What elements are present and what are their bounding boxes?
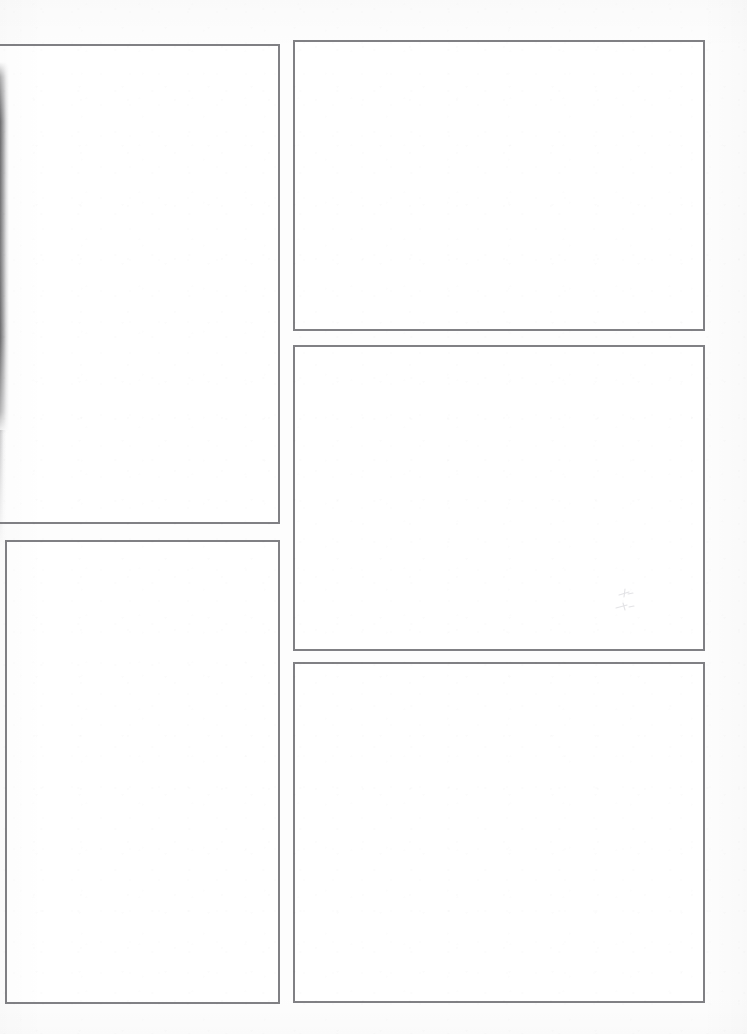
panel-top-left[interactable] xyxy=(0,44,280,524)
panel-top-right[interactable] xyxy=(293,40,705,331)
panel-bottom-left[interactable] xyxy=(5,540,280,1004)
comic-page-canvas xyxy=(0,0,747,1034)
panel-bottom-right[interactable] xyxy=(293,662,705,1003)
panel-middle-right[interactable] xyxy=(293,345,705,651)
